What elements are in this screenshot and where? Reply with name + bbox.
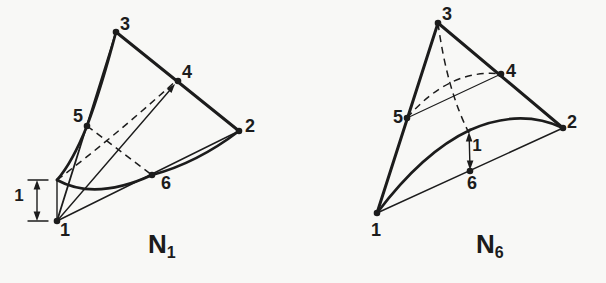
shape-function-figure: 1 1 2 3 4 5 6 N1 bbox=[0, 0, 606, 283]
dimension-arrowhead-down-icon bbox=[34, 212, 41, 222]
node-dot-1 bbox=[374, 210, 381, 217]
node-dot-5 bbox=[84, 123, 91, 130]
hidden-line-5-6 bbox=[87, 126, 152, 175]
title-main: N bbox=[148, 229, 167, 259]
unit-dimension-label: 1 bbox=[472, 136, 481, 155]
node-label-3: 3 bbox=[120, 14, 130, 34]
hidden-line-3-peak bbox=[438, 23, 469, 133]
diagram-n1: 1 1 2 3 4 5 6 N1 bbox=[14, 14, 255, 261]
node-label-5: 5 bbox=[393, 107, 403, 127]
node-label-2: 2 bbox=[567, 112, 577, 132]
node-label-2: 2 bbox=[245, 116, 255, 136]
node-label-1: 1 bbox=[60, 220, 70, 240]
dimension-arrow-line bbox=[469, 141, 470, 161]
node-label-4: 4 bbox=[182, 62, 192, 82]
diagram-n6: 1 1 2 3 4 5 6 N6 bbox=[371, 4, 577, 261]
node-label-3: 3 bbox=[442, 4, 452, 24]
title-subscript: 6 bbox=[495, 244, 504, 261]
diagram-title-n1: N1 bbox=[148, 229, 176, 261]
node-dot-6 bbox=[149, 172, 156, 179]
node-dot-2 bbox=[560, 125, 567, 132]
node-label-6: 6 bbox=[467, 173, 477, 193]
node-label-4: 4 bbox=[506, 61, 516, 81]
figure-canvas: 1 1 2 3 4 5 6 N1 bbox=[0, 0, 606, 283]
node-dot-3 bbox=[113, 29, 120, 36]
node-label-6: 6 bbox=[161, 173, 171, 193]
node-dot-3 bbox=[435, 20, 442, 27]
unit-dimension-label: 1 bbox=[14, 186, 23, 205]
title-main: N bbox=[476, 229, 495, 259]
node-dot-4 bbox=[498, 71, 505, 78]
title-subscript: 1 bbox=[167, 244, 176, 261]
surface-curve-5-3 bbox=[87, 32, 116, 126]
node-label-5: 5 bbox=[73, 106, 83, 126]
node-dot-2 bbox=[236, 128, 243, 135]
node-dot-4 bbox=[175, 78, 182, 85]
surface-curve-peak-2 bbox=[470, 118, 563, 130]
diagram-title-n6: N6 bbox=[476, 229, 504, 261]
node-label-1: 1 bbox=[371, 220, 381, 240]
dimension-arrowhead-up-icon bbox=[34, 180, 41, 190]
node-dot-5 bbox=[404, 115, 411, 122]
